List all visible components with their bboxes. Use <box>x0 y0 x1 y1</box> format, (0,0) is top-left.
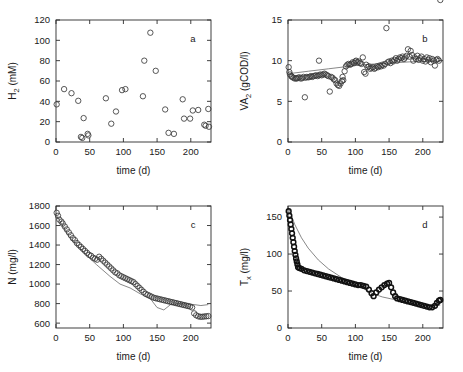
x-tick-label: 200 <box>415 146 431 157</box>
panel-letter: c <box>191 219 196 230</box>
x-tick-label: 200 <box>415 332 431 343</box>
data-point <box>389 285 394 290</box>
data-point <box>438 298 443 303</box>
data-point <box>166 130 171 135</box>
y-tick-label: 20 <box>39 116 50 127</box>
model-fit-line <box>289 208 441 306</box>
x-tick-label: 0 <box>53 332 58 343</box>
plot-area-c: 05010015020060080010001200140016001800ti… <box>0 186 231 372</box>
x-axis-label: time (d) <box>349 165 383 176</box>
data-point <box>81 115 86 120</box>
data-point <box>363 71 368 76</box>
x-tick-label: 150 <box>381 146 397 157</box>
y-tick-label: 1800 <box>29 200 50 211</box>
x-axis-label: time (d) <box>117 351 151 362</box>
model-fit-line <box>57 216 209 310</box>
y-tick-label: 600 <box>34 318 50 329</box>
data-point <box>171 131 176 136</box>
axis-box <box>56 20 211 142</box>
x-axis-label: time (d) <box>349 351 383 362</box>
y-tick-label: 100 <box>34 35 50 46</box>
x-tick-label: 200 <box>183 146 199 157</box>
data-markers <box>54 30 212 141</box>
data-point <box>162 107 167 112</box>
data-point <box>54 102 59 107</box>
data-point <box>196 107 201 112</box>
y-tick-label: 40 <box>39 96 50 107</box>
axis-box <box>56 206 211 328</box>
x-tick-label: 150 <box>149 332 165 343</box>
plot-area-d: 050100150200050100150time (d)Tx (mg/l)d <box>232 186 463 372</box>
panel-letter: a <box>190 33 196 44</box>
data-point <box>148 30 153 35</box>
panel-letter: b <box>422 33 427 44</box>
data-point <box>361 69 366 74</box>
data-point <box>316 58 321 63</box>
y-tick-label: 60 <box>39 75 50 86</box>
panel-c: 05010015020060080010001200140016001800ti… <box>0 186 231 372</box>
data-point <box>153 68 158 73</box>
data-point <box>203 123 208 128</box>
y-tick-label: 1600 <box>29 220 50 231</box>
data-markers <box>54 210 211 319</box>
y-axis-label: Tx (mg/l) <box>239 248 253 286</box>
data-point <box>180 97 185 102</box>
data-point <box>190 108 195 113</box>
y-tick-label: 100 <box>266 248 282 259</box>
data-point <box>360 55 365 60</box>
y-axis-label: N (mg/l) <box>7 249 18 285</box>
x-tick-label: 50 <box>84 332 95 343</box>
data-point <box>123 86 128 91</box>
data-point <box>109 121 114 126</box>
y-tick-label: 1200 <box>29 259 50 270</box>
y-tick-label: 1400 <box>29 239 50 250</box>
data-markers <box>286 0 443 100</box>
panel-d: 050100150200050100150time (d)Tx (mg/l)d <box>232 186 463 372</box>
x-tick-label: 0 <box>53 146 58 157</box>
plot-area-a: 050100150200020406080100120time (d)H2 (m… <box>0 0 231 186</box>
y-tick-label: 15 <box>271 14 282 25</box>
data-point <box>61 86 66 91</box>
data-point <box>76 98 81 103</box>
x-tick-label: 100 <box>347 146 363 157</box>
data-point <box>327 89 332 94</box>
x-tick-label: 100 <box>347 332 363 343</box>
data-point <box>187 116 192 121</box>
y-tick-label: 120 <box>34 14 50 25</box>
y-tick-label: 0 <box>277 322 282 333</box>
data-point <box>140 94 145 99</box>
data-point <box>103 96 108 101</box>
x-tick-label: 50 <box>316 332 327 343</box>
x-tick-label: 100 <box>115 332 131 343</box>
data-point <box>69 91 74 96</box>
y-tick-label: 0 <box>277 136 282 147</box>
x-tick-label: 0 <box>285 332 290 343</box>
data-point <box>206 106 211 111</box>
x-tick-label: 50 <box>84 146 95 157</box>
data-point <box>181 116 186 121</box>
x-axis-label: time (d) <box>117 165 151 176</box>
data-point <box>432 63 437 68</box>
x-tick-label: 100 <box>115 146 131 157</box>
y-axis-label: VA2 (gCOD/l) <box>239 51 253 110</box>
panel-b: 050100150200051015time (d)VA2 (gCOD/l)b <box>232 0 463 186</box>
y-tick-label: 80 <box>39 55 50 66</box>
y-axis-label: H2 (mM) <box>7 62 21 100</box>
data-point <box>302 95 307 100</box>
y-tick-label: 50 <box>271 285 282 296</box>
plot-area-b: 050100150200051015time (d)VA2 (gCOD/l)b <box>232 0 463 186</box>
data-point <box>80 135 85 140</box>
y-tick-label: 1000 <box>29 278 50 289</box>
panel-a: 050100150200020406080100120time (d)H2 (m… <box>0 0 231 186</box>
y-tick-label: 5 <box>277 96 282 107</box>
y-tick-label: 0 <box>45 136 50 147</box>
x-tick-label: 200 <box>183 332 199 343</box>
y-tick-label: 800 <box>34 298 50 309</box>
y-tick-label: 150 <box>266 211 282 222</box>
x-tick-label: 150 <box>149 146 165 157</box>
data-markers <box>286 209 442 310</box>
x-tick-label: 0 <box>285 146 290 157</box>
data-point <box>142 58 147 63</box>
y-tick-label: 10 <box>271 55 282 66</box>
panel-letter: d <box>422 219 427 230</box>
